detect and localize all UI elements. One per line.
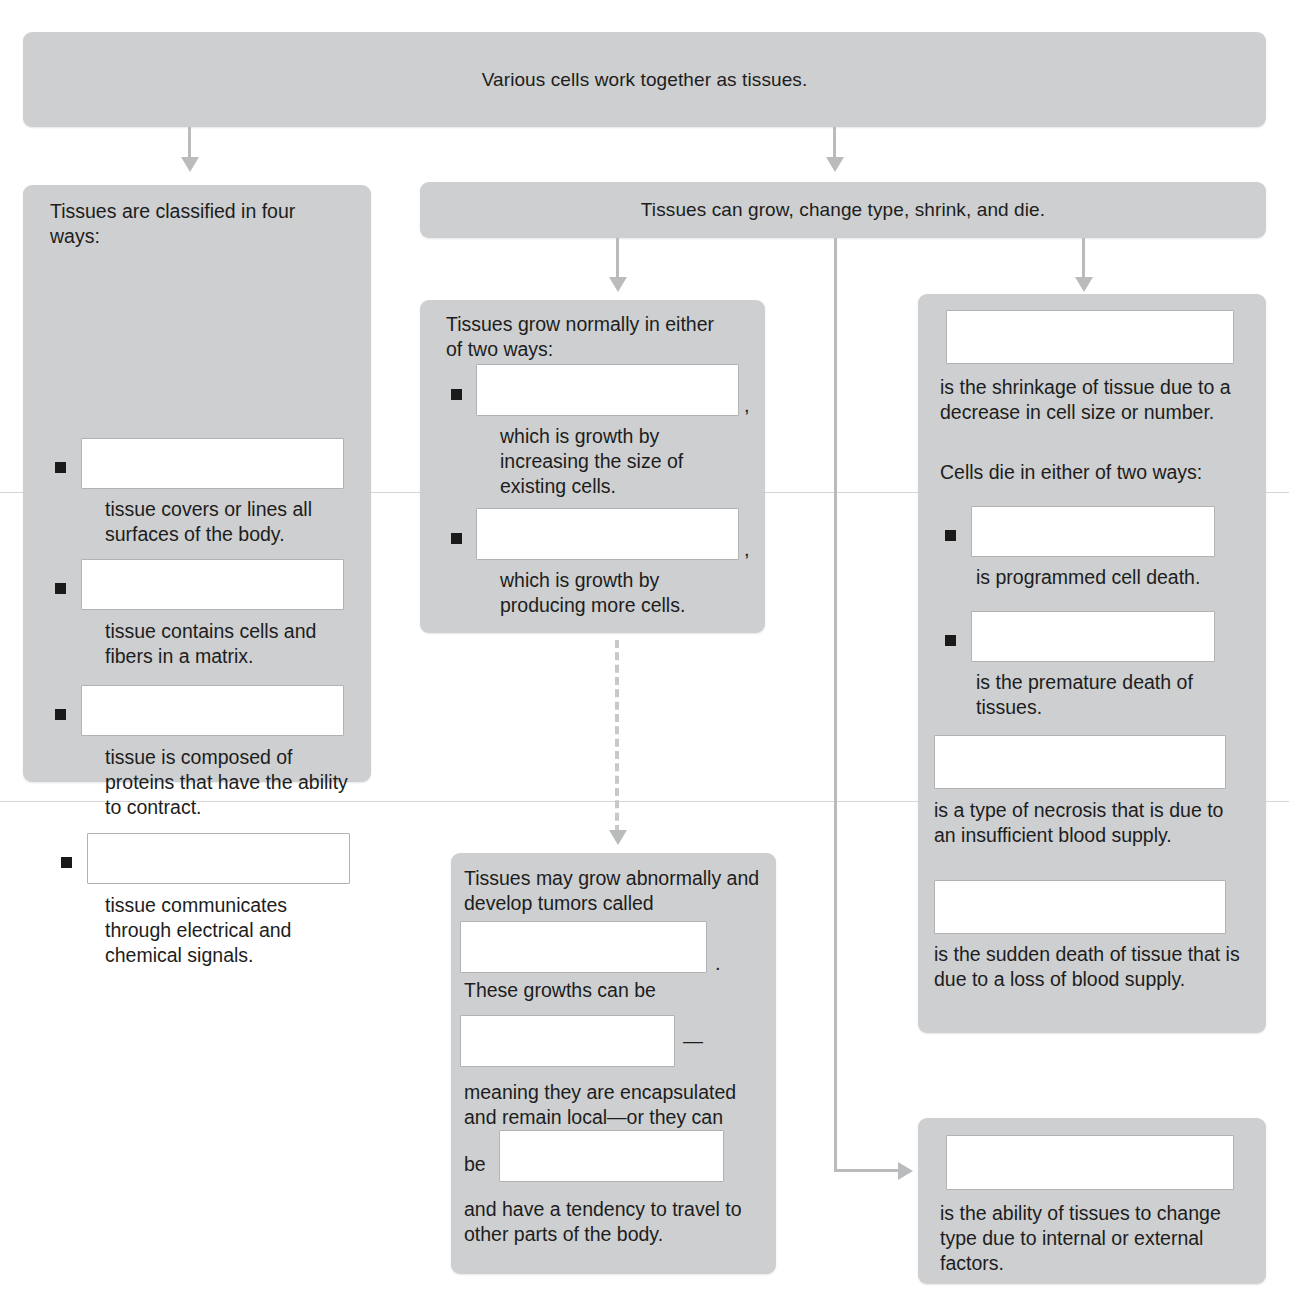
bullet-icon — [55, 462, 66, 473]
tissue-classification-panel: Tissues are classified in four ways: tis… — [23, 185, 371, 782]
abnormal-growth-line-4-prefix: be — [464, 1152, 486, 1177]
atrophy-description: is the shrinkage of tissue due to a decr… — [940, 375, 1240, 425]
bullet-icon — [55, 583, 66, 594]
apoptosis-description: is programmed cell death. — [976, 565, 1256, 590]
branch-banner: Tissues can grow, change type, shrink, a… — [420, 182, 1266, 238]
benign-tumor-blank[interactable] — [460, 1015, 675, 1067]
arrow-top-to-left-icon — [181, 157, 199, 172]
tissue-type-3-blank[interactable] — [81, 685, 344, 736]
apoptosis-blank[interactable] — [971, 506, 1215, 557]
bullet-icon — [451, 389, 462, 400]
connector-branch-to-metaplasia-vertical — [834, 238, 837, 1172]
arrow-growth-to-tumor-icon — [609, 830, 627, 845]
top-banner: Various cells work together as tissues. — [23, 32, 1266, 127]
malignant-tumor-blank[interactable] — [499, 1130, 724, 1182]
tumor-name-period: . — [715, 953, 721, 973]
arrow-top-to-branch-icon — [826, 157, 844, 172]
metaplasia-panel: is the ability of tissues to change type… — [918, 1118, 1266, 1284]
abnormal-growth-panel: Tissues may grow abnormally and develop … — [451, 853, 776, 1274]
tissue-type-4-blank[interactable] — [87, 833, 350, 884]
top-banner-label: Various cells work together as tissues. — [482, 69, 808, 91]
arrow-branch-to-atrophy-icon — [1075, 277, 1093, 292]
infarction-blank[interactable] — [934, 735, 1226, 789]
bullet-icon — [945, 635, 956, 646]
growth-type-2-comma: , — [744, 539, 750, 559]
metaplasia-name-blank[interactable] — [946, 1135, 1234, 1190]
gangrene-description: is the sudden death of tissue that is du… — [934, 942, 1242, 992]
growth-type-1-comma: , — [744, 395, 750, 415]
arrow-branch-to-metaplasia-icon — [898, 1162, 913, 1180]
bullet-icon — [61, 857, 72, 868]
tissue-classification-heading: Tissues are classified in four ways: — [50, 199, 340, 249]
bullet-icon — [945, 530, 956, 541]
infarction-description: is a type of necrosis that is due to an … — [934, 798, 1234, 848]
tissue-type-1-blank[interactable] — [81, 438, 344, 489]
tissue-type-3-description: tissue is composed of proteins that have… — [105, 745, 350, 820]
growth-type-2-blank[interactable] — [476, 508, 739, 560]
necrosis-blank[interactable] — [971, 611, 1215, 662]
arrow-branch-to-growth-icon — [609, 277, 627, 292]
metaplasia-description: is the ability of tissues to change type… — [940, 1201, 1246, 1276]
connector-growth-to-tumor-dashed — [615, 640, 619, 833]
tissue-type-2-description: tissue contains cells and fibers in a ma… — [105, 619, 357, 669]
abnormal-growth-line-3: meaning they are encapsulated and remain… — [464, 1080, 770, 1130]
connector-branch-to-metaplasia-horizontal — [834, 1169, 902, 1172]
tissue-type-2-blank[interactable] — [81, 559, 344, 610]
cell-death-heading: Cells die in either of two ways: — [940, 460, 1250, 485]
abnormal-growth-line-2: These growths can be — [464, 978, 764, 1003]
growth-type-1-description: which is growth by increasing the size o… — [500, 424, 715, 499]
tissue-type-1-description: tissue covers or lines all surfaces of t… — [105, 497, 357, 547]
normal-growth-heading: Tissues grow normally in either of two w… — [446, 312, 726, 362]
growth-type-1-blank[interactable] — [476, 364, 739, 416]
atrophy-and-cell-death-panel: is the shrinkage of tissue due to a decr… — [918, 294, 1266, 1033]
branch-banner-label: Tissues can grow, change type, shrink, a… — [641, 199, 1045, 221]
necrosis-description: is the premature death of tissues. — [976, 670, 1256, 720]
bullet-icon — [451, 533, 462, 544]
atrophy-name-blank[interactable] — [946, 310, 1234, 364]
normal-growth-panel: Tissues grow normally in either of two w… — [420, 300, 765, 633]
bullet-icon — [55, 709, 66, 720]
abnormal-growth-line-5: and have a tendency to travel to other p… — [464, 1197, 764, 1247]
gangrene-blank[interactable] — [934, 880, 1226, 934]
growth-type-2-description: which is growth by producing more cells. — [500, 568, 715, 618]
benign-tumor-dash: — — [683, 1031, 703, 1051]
tissue-type-4-description: tissue communicates through electrical a… — [105, 893, 351, 968]
abnormal-growth-line-1: Tissues may grow abnormally and develop … — [464, 866, 764, 916]
tumor-name-blank[interactable] — [460, 921, 707, 973]
